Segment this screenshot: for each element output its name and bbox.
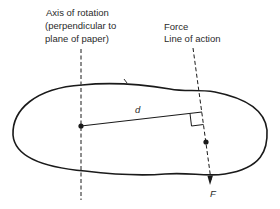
axis-label-line3: plane of paper) [45, 33, 109, 45]
diagram-canvas: Axis of rotation (perpendicular to plane… [0, 0, 280, 209]
force-label: Force [164, 21, 188, 33]
distance-label: d [135, 104, 140, 116]
axis-label-line2: (perpendicular to [45, 20, 116, 32]
pivot-point [78, 123, 83, 128]
force-symbol-label: F [210, 188, 216, 200]
axis-label-line1: Axis of rotation [46, 7, 109, 19]
force-application-point [203, 139, 208, 144]
line-of-action-label: Line of action [164, 33, 221, 45]
force-arrow-head [208, 176, 214, 186]
line-of-action [193, 48, 211, 180]
rigid-body-outline [13, 84, 267, 175]
perpendicular-distance-line [81, 112, 202, 126]
right-angle-marker [190, 114, 204, 127]
tick-mark [124, 79, 127, 83]
